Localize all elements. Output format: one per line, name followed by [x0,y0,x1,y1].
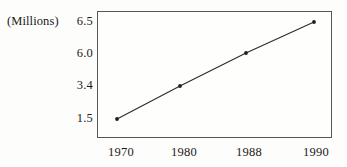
x-axis-tick-label-1988: 1988 [219,145,279,159]
y-axis-tick-label-1-5: 1.5 [0,112,93,125]
x-axis-tick-label-1980: 1980 [154,145,214,159]
data-point-1980 [178,84,182,88]
data-point-1990 [312,20,316,24]
series-line [117,22,314,119]
y-axis-tick-label-6-0: 6.0 [0,47,93,60]
data-series-layer [97,11,332,138]
x-axis-tick-label-1990: 1990 [286,145,346,159]
data-point-1970 [115,117,119,121]
y-axis-tick-label-3-4: 3.4 [0,79,93,92]
x-axis-tick-label-1970: 1970 [91,145,151,159]
y-axis-tick-label-6-5: 6.5 [0,15,93,28]
data-point-1988 [244,51,248,55]
line-chart-figure: (Millions) 6.5 6.0 3.4 1.5 1970 1980 198… [0,0,347,167]
